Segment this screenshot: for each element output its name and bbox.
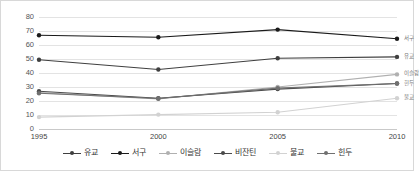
x-axis-tick-label: 2000 [150,133,167,141]
series-lines [39,17,397,129]
y-axis-tick-label: 80 [26,13,34,21]
chart-legend: 유교서구이슬람비잔틴불교힌두 [1,149,413,157]
legend-swatch-icon [111,149,129,157]
y-axis-tick-label: 10 [26,111,34,119]
legend-label: 불교 [290,149,304,157]
data-point-marker [37,115,41,119]
legend-item[interactable]: 비잔틴 [214,149,256,157]
data-point-marker [395,55,399,59]
data-point-marker [275,56,279,60]
legend-swatch-icon [269,149,287,157]
y-axis-tick-label: 50 [26,55,34,63]
y-axis-tick-label: 40 [26,69,34,77]
series-end-label: 이슬람 [404,72,419,78]
series-line [39,30,397,39]
chart-container: 01020304050607080 1995200020052010 서구유교이… [0,0,414,171]
x-axis-tick-label: 2005 [269,133,286,141]
y-axis-tick-label: 30 [26,83,34,91]
data-point-marker [156,35,160,39]
data-point-marker [275,27,279,31]
gridline [39,129,397,130]
y-axis-tick-label: 60 [26,41,34,49]
legend-item[interactable]: 서구 [111,149,146,157]
series-end-label: 서구 [404,36,414,42]
data-point-marker [37,58,41,62]
legend-item[interactable]: 이슬람 [159,149,201,157]
series-line [39,84,397,99]
data-point-marker [37,91,41,95]
data-point-marker [395,96,399,100]
data-point-marker [395,37,399,41]
legend-item[interactable]: 불교 [269,149,304,157]
data-point-marker [275,110,279,114]
x-axis-tick-label: 1995 [31,133,48,141]
data-point-marker [37,33,41,37]
legend-label: 비잔틴 [235,149,256,157]
series-end-label: 유교 [404,54,414,60]
legend-label: 힌두 [338,149,352,157]
series-end-label: 힌두 [404,81,414,87]
legend-swatch-icon [317,149,335,157]
series-end-label: 불교 [404,95,414,101]
legend-label: 유교 [84,149,98,157]
data-point-marker [275,86,279,90]
series-line [39,57,397,70]
data-point-marker [156,67,160,71]
data-point-marker [395,72,399,76]
data-point-marker [156,96,160,100]
legend-item[interactable]: 힌두 [317,149,352,157]
legend-label: 이슬람 [180,149,201,157]
plot-area: 01020304050607080 1995200020052010 서구유교이… [39,17,397,129]
x-axis-tick-label: 2010 [389,133,406,141]
data-point-marker [395,81,399,85]
legend-swatch-icon [63,149,81,157]
y-axis-tick-label: 70 [26,27,34,35]
data-point-marker [156,112,160,116]
y-axis-tick-label: 20 [26,97,34,105]
series-line [39,98,397,117]
legend-label: 서구 [132,149,146,157]
legend-swatch-icon [159,149,177,157]
legend-swatch-icon [214,149,232,157]
legend-item[interactable]: 유교 [63,149,98,157]
